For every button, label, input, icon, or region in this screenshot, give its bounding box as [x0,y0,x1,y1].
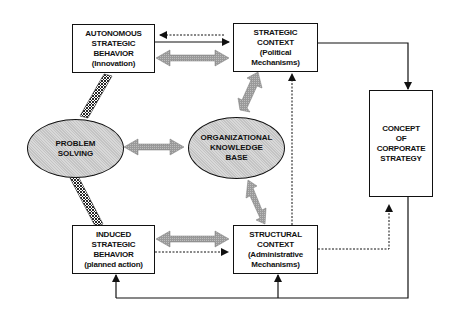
node-label: CONTEXT [257,38,294,48]
node-label: CONTEXT [257,240,294,250]
node-label: BEHAVIOR [93,49,133,59]
node-structural-context: STRUCTURAL CONTEXT (Administrative Mecha… [233,225,318,274]
node-label: STRATEGIC [92,240,136,250]
node-label: ORGANIZATIONAL [201,133,273,143]
node-label: AUTONOMOUS [85,29,142,39]
node-label: BASE [225,153,247,163]
node-strategic-context: STRATEGIC CONTEXT (Political Mechanisms) [233,23,318,72]
node-sublabel: (Administrative [248,250,303,260]
gray-double-arrow-knowledge-to-structural [246,180,266,224]
node-concept-of-corporate-strategy: CONCEPT OF CORPORATE STRATEGY [369,90,433,197]
node-organizational-knowledge-base: ORGANIZATIONAL KNOWLEDGE BASE [188,117,285,179]
gray-double-arrow-knowledge-to-strategic [238,72,262,112]
node-problem-solving: PROBLEM SOLVING [27,119,124,178]
node-autonomous-strategic-behavior: AUTONOMOUS STRATEGIC BEHAVIOR (Innovatio… [72,24,155,73]
gray-double-arrow-bottom [156,231,229,247]
node-label: OF [396,134,407,144]
node-label: STRATEGIC [92,39,136,49]
node-sublabel: (Political [260,48,291,58]
node-label: STRATEGY [380,154,421,164]
node-label: SOLVING [58,149,93,159]
node-label: INDUCED [96,230,131,240]
node-sublabel: (Innovation) [92,59,135,69]
node-induced-strategic-behavior: INDUCED STRATEGIC BEHAVIOR (planned acti… [72,225,155,274]
node-label: STRATEGIC [254,28,298,38]
node-label: BEHAVIOR [93,250,133,260]
node-sublabel: Mechanisms) [251,58,299,68]
dashed-arrow-structural-to-corporate [318,205,389,249]
crosshatch-problem-to-induced [70,176,103,226]
gray-double-arrow-top [156,50,229,66]
node-label: CONCEPT [382,124,420,134]
solid-arrow-strategic-to-corporate [318,43,408,89]
node-label: KNOWLEDGE [210,143,263,153]
crosshatch-autonomous-to-problem [80,74,112,118]
node-label: STRUCTURAL [249,230,302,240]
node-sublabel: (planned action) [84,260,143,270]
gray-double-arrow-middle [124,139,184,155]
node-label: CORPORATE [377,144,426,154]
node-label: PROBLEM [56,139,96,149]
node-sublabel: Mechanisms) [251,260,299,270]
